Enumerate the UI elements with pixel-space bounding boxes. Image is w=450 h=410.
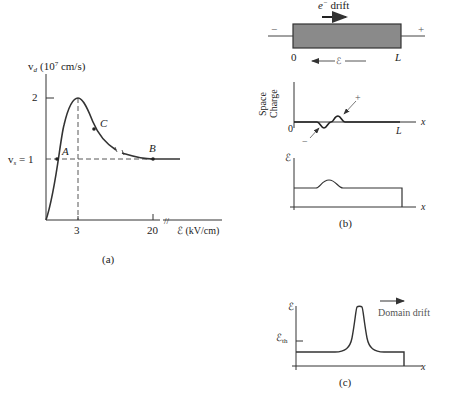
caption-a: (a) <box>102 253 115 266</box>
gunn-effect-figure: // A C B 2 vs = 1 3 20 ℰ (kV/cm) vd(107 … <box>0 0 450 410</box>
point-C <box>92 127 96 131</box>
field-profile-curve <box>294 180 402 207</box>
y-tick-2: 2 <box>32 91 38 103</box>
x-tick-20: 20 <box>147 224 159 236</box>
field-x-label: x <box>420 201 426 212</box>
point-B <box>151 157 155 161</box>
caption-b: (b) <box>339 217 352 230</box>
panel-a-velocity-field-plot: // A C B 2 vs = 1 3 20 ℰ (kV/cm) vd(107 … <box>8 60 222 266</box>
y-tick-vs: vs = 1 <box>8 153 33 167</box>
panel-c-domain-field: ℰ ℰth x Domain drift (c) <box>276 301 430 389</box>
space-charge-x-label: x <box>420 116 426 127</box>
field-y-label: ℰ <box>285 152 291 163</box>
negative-charge-label: − <box>302 136 308 147</box>
gunn-device-bar <box>293 24 401 48</box>
x-axis-label: ℰ (kV/cm) <box>177 225 219 237</box>
space-charge-label-1: Space <box>257 92 268 116</box>
caption-c: (c) <box>339 376 352 389</box>
space-charge-origin: 0 <box>288 123 293 134</box>
positive-charge-label: + <box>355 92 361 103</box>
domain-y-label: ℰ <box>288 301 294 312</box>
label-A: A <box>61 145 69 157</box>
axis-break-mark: // <box>164 216 170 226</box>
label-C: C <box>100 117 108 129</box>
point-A <box>55 157 59 161</box>
minus-terminal: − <box>271 23 277 35</box>
panel-b-device-and-fields: e− drift − + 0 L ℰ Space Charge + − 0 L … <box>257 0 426 230</box>
plus-terminal: + <box>418 23 424 35</box>
threshold-label: ℰth <box>276 332 288 345</box>
domain-x-label: x <box>420 361 426 372</box>
position-0: 0 <box>291 51 297 63</box>
space-charge-dipole-curve <box>294 116 400 128</box>
electron-drift-label: e− drift <box>318 0 349 11</box>
x-tick-3: 3 <box>74 224 80 236</box>
space-charge-L: L <box>395 125 402 136</box>
space-charge-label-2: Charge <box>268 89 279 118</box>
domain-drift-label: Domain drift <box>378 307 430 318</box>
position-L: L <box>394 51 401 63</box>
label-B: B <box>149 142 156 154</box>
y-axis-label: vd(107 cm/s) <box>28 60 86 74</box>
